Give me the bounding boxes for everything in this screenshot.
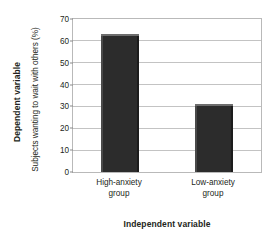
y-axis-tick-label: 0	[64, 168, 69, 177]
x-axis-title: Independent variable	[72, 219, 262, 229]
x-axis-category-label-line: Low-anxiety	[163, 177, 263, 188]
y-axis-tick-label: 10	[60, 146, 69, 155]
y-axis-tick-mark	[70, 128, 73, 129]
x-axis-category-label-line: group	[163, 188, 263, 199]
x-axis-category-label-line: group	[69, 188, 169, 199]
y-axis-tick-mark	[70, 172, 73, 173]
plot-area: 010203040506070	[72, 18, 262, 173]
y-axis-tick-label: 30	[60, 102, 69, 111]
y-axis-tick-label: 60	[60, 36, 69, 45]
bar	[101, 34, 139, 172]
y-axis-tick-label: 40	[60, 80, 69, 89]
y-axis-tick-mark	[70, 62, 73, 63]
x-axis-category-label: Low-anxietygroup	[163, 177, 263, 199]
y-axis-tick-mark	[70, 40, 73, 41]
y-axis-tick-label: 70	[60, 15, 69, 24]
x-axis-category-label: High-anxietygroup	[69, 177, 169, 199]
x-axis-category-label-line: High-anxiety	[69, 177, 169, 188]
y-axis-outer-title: Dependent variable	[12, 47, 22, 157]
y-axis-label: Subjects wanting to wait with others (%)	[31, 12, 40, 187]
y-axis-tick-mark	[70, 106, 73, 107]
y-axis-tick-label: 20	[60, 124, 69, 133]
bar	[195, 104, 233, 172]
y-axis-tick-mark	[70, 150, 73, 151]
y-axis-tick-mark	[70, 19, 73, 20]
y-axis-tick-mark	[70, 84, 73, 85]
y-axis-tick-label: 50	[60, 58, 69, 67]
bar-chart-figure: Dependent variable Subjects wanting to w…	[0, 0, 279, 237]
